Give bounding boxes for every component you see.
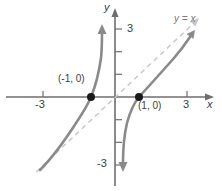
- curve-left-arrowhead: [98, 24, 107, 34]
- x-tick-label-3: 3: [183, 99, 189, 110]
- x-tick-label-neg3: -3: [35, 99, 45, 110]
- graph-figure: y x -3 3 3 -3 (-1, 0) (1, 0) y = x: [0, 0, 222, 191]
- curve-left-branch: [40, 32, 102, 170]
- x-axis-label: x: [207, 99, 213, 110]
- annotation-x-intercept-left: (-1, 0): [58, 74, 85, 84]
- annotation-slant-asymptote: y = x: [174, 14, 195, 24]
- y-tick-label-neg3: -3: [97, 158, 107, 169]
- y-axis-label: y: [104, 2, 110, 13]
- y-tick-label-3: 3: [127, 23, 133, 34]
- annotation-x-intercept-right: (1, 0): [138, 101, 161, 111]
- y-axis-arrowhead: [112, 8, 119, 17]
- curve-right-lower-arrowhead: [119, 162, 128, 172]
- marker-point-neg1-0: [87, 93, 95, 101]
- coordinate-plane-svg: [0, 0, 222, 191]
